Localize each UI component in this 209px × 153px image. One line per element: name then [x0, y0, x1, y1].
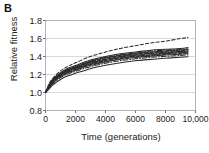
x-tick-label: 4000 [96, 114, 115, 124]
x-tick-label: 6000 [126, 114, 145, 124]
series-line [46, 38, 189, 93]
x-tick-label: 2000 [66, 114, 85, 124]
x-tick-label: 10,000 [183, 114, 209, 124]
plot-frame [46, 21, 196, 111]
y-tick-label: 0.8 [29, 106, 42, 116]
x-tick-label: 0 [43, 114, 48, 124]
series-line [46, 54, 189, 93]
data-series-group [46, 38, 189, 93]
y-tick-label: 1.2 [29, 70, 42, 80]
y-tick-label: 1.6 [29, 34, 42, 44]
y-tick-label: 1.4 [29, 52, 42, 62]
x-axis-tick-labels: 0200040006000800010,000 [43, 114, 209, 124]
y-axis-tick-labels: 0.81.01.21.41.61.8 [29, 16, 45, 116]
figure-panel-b: B Relative fitness Time (generations) 0.… [0, 0, 209, 153]
line-chart: 0.81.01.21.41.61.8 0200040006000800010,0… [0, 0, 209, 153]
gridlines [46, 39, 196, 93]
y-tick-label: 1.8 [29, 16, 42, 26]
x-tick-label: 8000 [156, 114, 175, 124]
y-tick-label: 1.0 [29, 88, 42, 98]
